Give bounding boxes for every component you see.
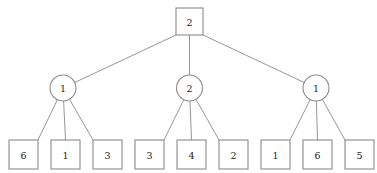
leaf-node-2-2: 5 [345, 140, 374, 169]
leaf-node-0-0-label: 6 [20, 150, 26, 161]
edge-branch-2-to-leaf-0 [290, 100, 310, 140]
leaf-node-0-0: 6 [9, 140, 38, 169]
edge-branch-0-to-leaf-1 [64, 101, 66, 140]
nodes-layer: 2161323421165 [9, 8, 374, 169]
leaf-node-2-1-label: 6 [314, 150, 320, 161]
edge-branch-1-to-leaf-1 [190, 101, 192, 140]
leaf-node-0-1-label: 1 [62, 150, 68, 161]
leaf-node-0-2-label: 3 [104, 150, 110, 161]
leaf-node-2-1: 6 [303, 140, 332, 169]
edge-branch-1-to-leaf-2 [196, 99, 219, 140]
branch-node-0: 1 [50, 75, 76, 101]
edge-root-to-branch-2 [203, 35, 304, 82]
edge-root-to-branch-0 [75, 35, 176, 82]
leaf-node-2-0: 1 [261, 140, 290, 169]
leaf-node-1-1: 4 [177, 140, 206, 169]
leaf-node-0-2: 3 [93, 140, 122, 169]
tree-diagram-svg: 2161323421165 [0, 0, 377, 173]
leaf-node-2-2-label: 5 [356, 150, 362, 161]
branch-node-0-label: 1 [60, 83, 66, 94]
leaf-node-1-0-label: 3 [146, 150, 152, 161]
edge-branch-1-to-leaf-0 [164, 100, 184, 140]
leaf-node-2-0-label: 1 [272, 150, 278, 161]
edge-branch-2-to-leaf-2 [322, 99, 345, 140]
edge-branch-2-to-leaf-1 [316, 101, 317, 140]
leaf-node-1-2: 2 [219, 140, 248, 169]
branch-node-1: 2 [177, 75, 203, 101]
leaf-node-1-0: 3 [135, 140, 164, 169]
branch-node-2-label: 1 [313, 83, 319, 94]
tree-diagram-canvas: 2161323421165 [0, 0, 377, 173]
branch-node-2: 1 [303, 75, 329, 101]
edge-branch-0-to-leaf-0 [38, 100, 57, 140]
leaf-node-1-1-label: 4 [188, 150, 194, 161]
leaf-node-0-1: 1 [51, 140, 80, 169]
root-node: 2 [176, 8, 203, 35]
edge-branch-0-to-leaf-2 [69, 99, 93, 140]
branch-node-1-label: 2 [186, 83, 192, 94]
root-node-label: 2 [186, 17, 192, 28]
leaf-node-1-2-label: 2 [230, 150, 236, 161]
